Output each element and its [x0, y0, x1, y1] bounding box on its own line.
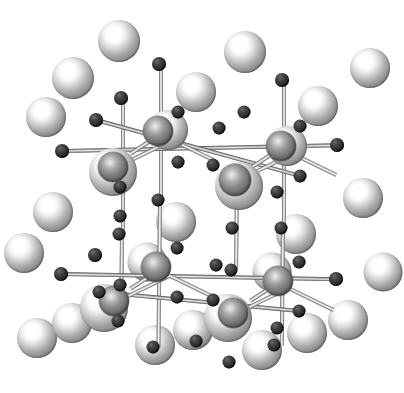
atom-small — [89, 113, 103, 127]
atom-small — [172, 106, 185, 119]
atom-small — [271, 322, 284, 335]
crystal-structure-figure — [0, 0, 404, 393]
atom-small — [114, 279, 127, 292]
atom-small — [152, 194, 165, 207]
atom-small — [226, 222, 239, 235]
atom-small — [114, 181, 127, 194]
small-atom-layer — [0, 0, 404, 393]
atom-small — [207, 294, 220, 307]
atom-small — [294, 170, 307, 183]
atom-small — [268, 339, 281, 352]
atom-small — [190, 335, 203, 348]
atom-small — [114, 91, 128, 105]
atom-small — [330, 138, 344, 152]
atom-small — [275, 73, 289, 87]
atom-small — [171, 242, 184, 255]
atom-small — [294, 120, 307, 133]
atom-small — [114, 210, 127, 223]
atom-small — [112, 315, 125, 328]
atom-small — [152, 57, 166, 71]
atom-small — [93, 286, 106, 299]
atom-small — [147, 341, 160, 354]
atom-small — [172, 156, 185, 169]
atom-small — [238, 106, 251, 119]
atom-small — [210, 259, 223, 272]
atom-small — [271, 186, 284, 199]
atom-small — [55, 144, 69, 158]
atom-small — [275, 222, 288, 235]
atom-small — [293, 256, 306, 269]
atom-small — [225, 264, 238, 277]
atom-small — [54, 267, 68, 281]
atom-small — [171, 291, 184, 304]
atom-small — [207, 159, 220, 172]
atom-small — [213, 122, 226, 135]
atom-small — [223, 356, 236, 369]
atom-small — [88, 248, 102, 262]
atom-small — [293, 305, 306, 318]
atom-small — [113, 228, 126, 241]
atom-small — [329, 272, 343, 286]
